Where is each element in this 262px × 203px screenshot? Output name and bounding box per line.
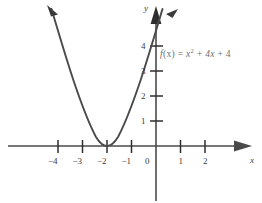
y-axis-label: y (144, 4, 148, 13)
curve-left-arrow-icon (47, 5, 58, 17)
function-plus-2: + (217, 49, 223, 59)
function-term1-exponent: 2 (191, 47, 195, 54)
parabola-plot (0, 0, 262, 203)
parabola-curve (52, 9, 163, 146)
x-axis-label: x (250, 156, 254, 165)
y-tick-label-2: 2 (141, 92, 146, 101)
function-term2: 4x (205, 49, 215, 59)
x-tick-label--4: −4 (48, 157, 58, 166)
function-label: f(x) = x2 + 4x + 4 (160, 50, 231, 60)
function-equals: = (178, 49, 184, 59)
x-tick-label-0: 0 (145, 157, 150, 166)
curve-right-arrow-icon (166, 9, 178, 18)
y-tick-label-1: 1 (141, 117, 146, 126)
x-tick-label-2: 2 (203, 157, 208, 166)
x-tick-label-1: 1 (179, 157, 184, 166)
graph-figure: −4 −3 −2 −1 0 1 2 1 2 3 4 y x f(x) = x2 … (0, 0, 262, 203)
function-plus-1: + (197, 49, 203, 59)
x-axis-arrow-icon (234, 141, 252, 152)
y-tick-label-3: 3 (141, 67, 146, 76)
x-tick-label--3: −3 (73, 157, 83, 166)
function-arg: (x) (163, 49, 175, 59)
y-tick-label-4: 4 (141, 42, 146, 51)
x-tick-label--2: −2 (97, 157, 107, 166)
function-term3: 4 (226, 49, 231, 59)
x-tick-label--1: −1 (122, 157, 132, 166)
